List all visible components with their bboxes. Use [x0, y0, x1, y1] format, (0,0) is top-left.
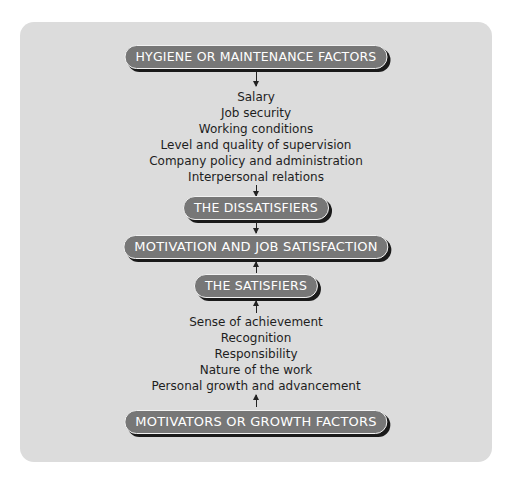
motivator-item: Sense of achievement: [20, 314, 492, 330]
satisfiers-box: THE SATISFIERS: [194, 274, 318, 298]
arrow-up-icon: [256, 301, 257, 313]
arrow-down-icon: [256, 222, 257, 233]
motivator-item: Personal growth and advancement: [20, 378, 492, 394]
arrow-up-icon: [256, 262, 257, 273]
hygiene-factors-box: HYGIENE OR MAINTENANCE FACTORS: [125, 45, 388, 69]
hygiene-item: Interpersonal relations: [20, 169, 492, 185]
arrow-up-icon: [256, 395, 257, 407]
hygiene-factors-list: Salary Job security Working conditions L…: [20, 89, 492, 185]
motivator-item: Responsibility: [20, 346, 492, 362]
motivators-growth-box: MOTIVATORS OR GROWTH FACTORS: [124, 410, 387, 434]
dissatisfiers-box: THE DISSATISFIERS: [183, 196, 329, 220]
motivator-item: Recognition: [20, 330, 492, 346]
motivators-list: Sense of achievement Recognition Respons…: [20, 314, 492, 394]
hygiene-item: Level and quality of supervision: [20, 137, 492, 153]
hygiene-item: Job security: [20, 105, 492, 121]
arrow-down-icon: [256, 185, 257, 196]
arrow-down-icon: [256, 72, 257, 86]
motivation-satisfaction-box: MOTIVATION AND JOB SATISFACTION: [123, 235, 388, 259]
hygiene-item: Working conditions: [20, 121, 492, 137]
hygiene-item: Salary: [20, 89, 492, 105]
motivator-item: Nature of the work: [20, 362, 492, 378]
hygiene-item: Company policy and administration: [20, 153, 492, 169]
diagram-panel: HYGIENE OR MAINTENANCE FACTORS Salary Jo…: [20, 22, 492, 462]
